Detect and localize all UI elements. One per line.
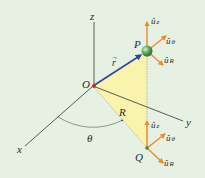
theta-arc <box>58 117 123 127</box>
p-label: P <box>133 38 141 50</box>
x-label: x <box>16 143 22 155</box>
origin-label: O <box>82 78 90 90</box>
projection-triangle <box>93 51 147 148</box>
point-p-sphere <box>142 46 153 57</box>
uz-label-q: ûz <box>151 120 160 130</box>
uR-label-q: ûR <box>164 158 175 168</box>
R-label: R <box>118 106 126 118</box>
z-label: z <box>89 10 95 22</box>
r-arrow-accent: → <box>111 53 118 61</box>
cylindrical-coordinates-diagram: z y x O P Q r → R θ ûz ûθ ûR ûz ûθ ûR <box>0 0 205 178</box>
utheta-vector-q <box>147 134 165 148</box>
uR-vector-q <box>147 148 163 163</box>
x-axis <box>25 86 93 146</box>
q-label: Q <box>135 151 143 163</box>
utheta-label-p: ûθ <box>166 36 176 46</box>
uz-label-p: ûz <box>151 16 160 26</box>
origin-dot <box>92 84 96 88</box>
point-q-dot <box>145 146 149 150</box>
y-label: y <box>185 116 191 128</box>
uR-label-p: ûR <box>164 55 175 65</box>
utheta-label-q: ûθ <box>166 133 176 143</box>
theta-label: θ <box>87 132 93 144</box>
